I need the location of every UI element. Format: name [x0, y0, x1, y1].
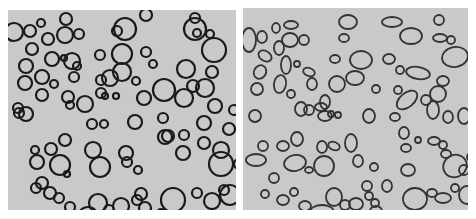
- ellipse-shape: [274, 41, 284, 55]
- ellipse-shape: [415, 137, 421, 143]
- ellipse-shape: [314, 156, 334, 176]
- circle-shape: [45, 52, 59, 66]
- circle-shape: [31, 146, 39, 154]
- ellipse-shape: [350, 51, 372, 69]
- ellipse-shape: [401, 144, 411, 152]
- ellipse-shape: [372, 85, 380, 93]
- ellipse-shape: [459, 186, 468, 204]
- ellipse-shape: [349, 198, 363, 210]
- ellipse-shape: [272, 23, 280, 33]
- ellipse-shape: [353, 155, 363, 167]
- ellipse-shape: [302, 66, 316, 78]
- circle-shape: [64, 171, 70, 177]
- circle-shape: [112, 44, 132, 64]
- ellipse-shape: [393, 87, 420, 113]
- ellipse-shape: [443, 111, 453, 123]
- circle-shape: [128, 115, 142, 129]
- ellipse-shape: [290, 188, 298, 196]
- ellipse-shape: [287, 90, 295, 98]
- circle-shape: [234, 159, 236, 169]
- circle-shape: [206, 66, 218, 78]
- ellipse-shape: [246, 154, 266, 166]
- circle-shape: [158, 113, 168, 123]
- ellipse-shape: [330, 55, 340, 63]
- circle-shape: [193, 29, 201, 37]
- circle-shape: [149, 60, 157, 68]
- circle-shape: [134, 166, 142, 174]
- circle-shape: [74, 29, 84, 39]
- ellipse-shape: [447, 36, 455, 44]
- ellipse-shape: [439, 150, 468, 181]
- ellipse-shape: [399, 127, 409, 139]
- ellipse-shape: [317, 141, 327, 153]
- ellipse-shape: [291, 132, 303, 146]
- ellipse-shape: [458, 108, 468, 124]
- ellipse-shape: [362, 181, 372, 191]
- circle-shape: [45, 143, 57, 155]
- ellipse-shape: [329, 76, 345, 92]
- ellipse-shape: [327, 140, 341, 152]
- circle-shape: [69, 72, 79, 82]
- circle-shape: [57, 27, 73, 43]
- ellipse-shape: [307, 78, 317, 90]
- circle-shape: [208, 99, 222, 113]
- ellipse-shape: [258, 141, 268, 151]
- ellipses-graphic: [243, 8, 468, 210]
- circle-shape: [24, 25, 36, 37]
- circle-shape: [192, 188, 202, 198]
- ellipse-shape: [428, 137, 440, 145]
- circle-shape: [65, 202, 75, 210]
- circle-shape: [202, 38, 226, 62]
- ellipse-shape: [382, 180, 392, 192]
- ellipse-shape: [451, 184, 459, 192]
- ellipse-shape: [261, 190, 269, 198]
- ellipse-shape: [277, 195, 289, 205]
- ellipse-shape: [339, 15, 357, 29]
- circle-shape: [177, 60, 195, 78]
- ellipse-shape: [281, 56, 291, 74]
- ellipse-shape: [401, 164, 415, 176]
- ellipse-shape: [339, 34, 349, 42]
- circle-shape: [139, 202, 151, 210]
- circle-shape: [198, 137, 210, 149]
- ellipse-shape: [294, 61, 300, 67]
- circle-shape: [19, 59, 33, 73]
- circle-shape: [179, 130, 189, 140]
- circle-shape: [95, 50, 105, 60]
- circle-shape: [87, 119, 97, 129]
- ellipse-shape: [440, 45, 468, 69]
- ellipse-shape: [370, 163, 378, 171]
- circle-shape: [141, 47, 151, 57]
- circle-shape: [18, 76, 32, 90]
- ellipses-stimulus-panel: [243, 8, 468, 210]
- ellipse-shape: [277, 141, 289, 151]
- ellipse-shape: [403, 188, 427, 210]
- ellipse-shape: [435, 193, 451, 203]
- circle-shape: [175, 89, 193, 107]
- ellipse-shape: [370, 206, 382, 210]
- ellipse-shape: [299, 201, 311, 210]
- circles-graphic: [8, 10, 236, 210]
- ellipse-shape: [394, 86, 402, 94]
- ellipse-shape: [390, 113, 400, 121]
- ellipse-shape: [430, 86, 446, 102]
- ellipse-shape: [439, 141, 447, 149]
- circle-shape: [229, 105, 236, 115]
- circle-shape: [176, 146, 190, 160]
- ellipse-shape: [346, 71, 364, 85]
- ellipse-shape: [299, 35, 309, 45]
- ellipse-shape: [257, 31, 267, 43]
- ellipse-shape: [434, 15, 444, 25]
- ellipse-shape: [437, 76, 449, 86]
- circle-shape: [197, 116, 211, 130]
- ellipse-shape: [256, 48, 273, 64]
- circle-shape: [206, 30, 214, 38]
- circle-shape: [36, 89, 48, 101]
- circle-shape: [132, 77, 140, 85]
- circle-shape: [223, 123, 235, 135]
- circle-shape: [26, 43, 38, 55]
- circle-shape: [90, 157, 110, 177]
- ellipse-shape: [251, 63, 268, 81]
- ellipse-shape: [363, 109, 375, 123]
- circle-shape: [85, 142, 101, 158]
